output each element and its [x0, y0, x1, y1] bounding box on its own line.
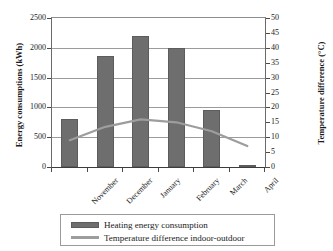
x-axis-tick-mark: [229, 168, 230, 172]
y-axis-right-tick-mark: [266, 93, 270, 94]
y-axis-left-tick-label: 1000: [16, 103, 46, 111]
y-axis-right-tick-mark: [266, 18, 270, 19]
y-axis-right-tickmarks: [266, 17, 270, 168]
x-axis-tick-mark: [87, 168, 88, 172]
y-axis-left-tick-label: 0: [16, 163, 46, 171]
y-axis-right-tick-mark: [266, 122, 270, 123]
y-axis-right-tick-label: 35: [271, 59, 301, 67]
y-axis-right-tick-label: 45: [271, 29, 301, 37]
x-axis-category-label: November: [90, 176, 120, 206]
temperature-line-series: [52, 18, 265, 167]
plot-area: [51, 17, 266, 168]
legend-label-line: Temperature difference indoor-outdoor: [104, 233, 244, 243]
y-axis-right-tick-mark: [266, 167, 270, 168]
y-axis-left-tick-label: 2000: [16, 44, 46, 52]
x-axis-tick-mark: [51, 168, 52, 172]
y-axis-right-ticks: 05101520253035404550: [271, 17, 301, 168]
y-axis-right-tick-mark: [266, 63, 270, 64]
y-axis-right-tick-label: 30: [271, 74, 301, 82]
chart-legend: Heating energy consumption Temperature d…: [60, 214, 275, 246]
bar-swatch-icon: [71, 222, 99, 228]
legend-item-line: Temperature difference indoor-outdoor: [61, 231, 274, 244]
y-axis-right-tick-label: 40: [271, 44, 301, 52]
y-axis-right-tick-mark: [266, 33, 270, 34]
x-axis-category-label: January: [158, 176, 182, 200]
x-axis-category-label: March: [228, 176, 249, 197]
line-swatch-icon: [71, 236, 99, 239]
x-axis-tick-mark: [193, 168, 194, 172]
temperature-polyline: [70, 119, 248, 146]
y-axis-right-tick-mark: [266, 137, 270, 138]
y-axis-left-tick-label: 1500: [16, 74, 46, 82]
y-axis-left-tick-label: 2500: [16, 14, 46, 22]
y-axis-right-tick-label: 20: [271, 103, 301, 111]
y-axis-right-title: Temperature difference (°C): [316, 18, 326, 168]
y-axis-right-tick-label: 15: [271, 118, 301, 126]
legend-label-bar: Heating energy consumption: [104, 220, 208, 230]
x-axis-tick-mark: [122, 168, 123, 172]
x-axis-tick-mark: [158, 168, 159, 172]
legend-item-bar: Heating energy consumption: [61, 218, 274, 231]
y-axis-right-tick-label: 10: [271, 133, 301, 141]
x-axis-category-label: February: [195, 176, 222, 203]
y-axis-right-tick-mark: [266, 78, 270, 79]
chart-container: Energy consumptions (kWh) Temperature di…: [0, 0, 333, 251]
y-axis-right-tick-label: 50: [271, 14, 301, 22]
y-axis-right-tick-mark: [266, 48, 270, 49]
y-axis-right-tick-label: 0: [271, 163, 301, 171]
y-axis-right-tick-label: 25: [271, 89, 301, 97]
y-axis-left-tick-label: 500: [16, 133, 46, 141]
y-axis-right-tick-label: 5: [271, 148, 301, 156]
x-axis-category-label: April: [262, 176, 280, 194]
y-axis-right-tick-mark: [266, 107, 270, 108]
x-axis-tickmarks: [51, 168, 266, 172]
x-axis-tick-mark: [264, 168, 265, 172]
y-axis-right-tick-mark: [266, 152, 270, 153]
y-axis-left-ticks: 05001000150020002500: [16, 17, 46, 168]
x-axis-category-label: December: [125, 176, 155, 206]
